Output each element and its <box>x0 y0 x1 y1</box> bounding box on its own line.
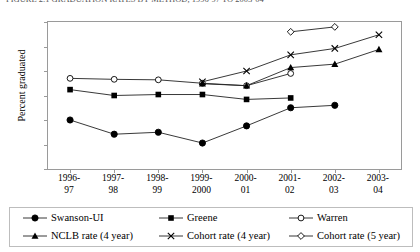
data-point <box>376 32 382 38</box>
legend-marker <box>298 215 304 221</box>
legend-symbol <box>288 212 314 224</box>
series-line <box>70 105 335 143</box>
legend-label: NCLB rate (4 year) <box>51 230 133 241</box>
legend-item[interactable]: Swanson-UI <box>22 209 104 226</box>
legend-label: Swanson-UI <box>51 212 104 223</box>
data-point <box>288 71 294 77</box>
y-axis-title: Percent graduated <box>16 36 27 136</box>
series-line <box>70 73 291 85</box>
data-point <box>155 129 161 135</box>
legend-item[interactable]: Warren <box>288 209 348 226</box>
legend-symbol <box>288 230 314 242</box>
y-tick-mark <box>44 145 48 146</box>
data-point <box>67 117 73 123</box>
plot-area: 45505560657075 <box>47 21 402 170</box>
data-point <box>111 131 117 137</box>
legend-label: Cohort rate (4 year) <box>187 230 270 241</box>
data-point <box>155 77 161 83</box>
series-line <box>70 90 291 100</box>
legend-symbol <box>22 230 48 242</box>
data-point <box>67 75 73 81</box>
figure-caption: FIGURE 2.1 GRADUATION RATES BY METHOD, 1… <box>6 0 306 6</box>
data-point <box>244 97 250 103</box>
y-tick-mark <box>44 120 48 121</box>
data-point <box>111 93 117 99</box>
chart-svg <box>48 22 401 169</box>
data-point <box>200 92 206 98</box>
legend-label: Greene <box>187 212 217 223</box>
data-point <box>243 68 249 74</box>
y-tick-mark <box>44 47 48 48</box>
data-point <box>332 102 338 108</box>
x-tick-label: 2003-04 <box>351 173 405 196</box>
data-point <box>288 95 294 101</box>
legend-symbol <box>158 230 184 242</box>
legend-marker <box>32 214 38 220</box>
y-tick-mark <box>44 169 48 170</box>
legend-item[interactable]: Greene <box>158 209 217 226</box>
data-point <box>331 24 338 31</box>
legend-item[interactable]: Cohort rate (4 year) <box>158 227 270 244</box>
chart-legend: Swanson-UIGreeneWarren NCLB rate (4 year… <box>9 207 413 247</box>
x-axis-labels: 1996-971997-981998-991999-20002000-01200… <box>47 173 400 201</box>
data-point <box>156 92 162 98</box>
data-point <box>111 76 117 82</box>
legend-label: Cohort rate (5 year) <box>317 230 400 241</box>
legend-item[interactable]: Cohort rate (5 year) <box>288 227 400 244</box>
legend-marker <box>168 215 174 221</box>
series-line <box>291 27 335 32</box>
data-point <box>375 46 382 52</box>
legend-symbol <box>22 212 48 224</box>
y-tick-mark <box>44 96 48 97</box>
data-point <box>287 28 294 35</box>
data-point <box>67 87 73 93</box>
legend-symbol <box>158 212 184 224</box>
data-point <box>243 123 249 129</box>
data-point <box>199 140 205 146</box>
legend-label: Warren <box>317 212 348 223</box>
legend-marker <box>298 232 305 239</box>
y-tick-mark <box>44 22 48 23</box>
data-point <box>288 105 294 111</box>
legend-item[interactable]: NCLB rate (4 year) <box>22 227 133 244</box>
y-tick-mark <box>44 71 48 72</box>
